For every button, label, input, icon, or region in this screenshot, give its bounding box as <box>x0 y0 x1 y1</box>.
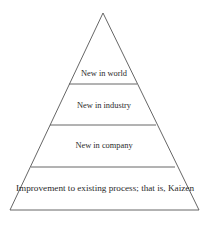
pyramid-outline <box>10 13 199 210</box>
level-new-in-world: New in world <box>81 69 128 78</box>
pyramid-diagram: New in world New in industry New in comp… <box>0 0 211 225</box>
level-new-in-company: New in company <box>75 141 133 150</box>
level-kaizen: Improvement to existing process; that is… <box>16 184 195 193</box>
level-new-in-industry: New in industry <box>77 101 132 110</box>
